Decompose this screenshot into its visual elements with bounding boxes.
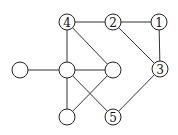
edge-n4-nM [67, 22, 113, 70]
edge-n3-n5 [113, 69, 160, 117]
node-circle [105, 62, 121, 78]
graph-node-3: 3 [152, 61, 168, 77]
node-circle [59, 109, 75, 125]
node-label: 3 [156, 63, 164, 77]
node-label: 1 [155, 16, 163, 30]
node-label: 2 [109, 16, 117, 30]
edges [20, 22, 160, 117]
graph-node-1: 1 [151, 14, 167, 30]
graph-diagram: 42135 [0, 0, 178, 135]
graph-node-5: 5 [105, 109, 121, 125]
node-label: 4 [63, 16, 71, 30]
node-label: 5 [109, 111, 117, 125]
graph-node-unlabeled [105, 62, 121, 78]
node-circle [59, 62, 75, 78]
edge-n2-n3 [113, 22, 160, 69]
graph-node-unlabeled [12, 62, 28, 78]
graph-node-4: 4 [59, 14, 75, 30]
graph-node-unlabeled [59, 109, 75, 125]
graph-node-unlabeled [59, 62, 75, 78]
node-circle [12, 62, 28, 78]
graph-node-2: 2 [105, 14, 121, 30]
